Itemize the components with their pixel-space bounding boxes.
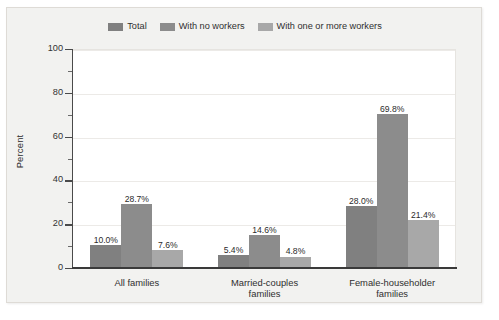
- bar-value-label: 69.8%: [371, 105, 414, 114]
- x-axis-group-label-line: families: [328, 288, 456, 299]
- bar[interactable]: [346, 206, 377, 267]
- bar[interactable]: [218, 255, 249, 267]
- legend-label-with-one-or-more-workers: With one or more workers: [277, 22, 382, 31]
- y-tick-label: 0: [27, 263, 63, 272]
- plot-area: 10.0%28.7%7.6%5.4%14.6%4.8%28.0%69.8%21.…: [73, 49, 456, 268]
- legend-swatch-total: [108, 23, 123, 31]
- y-tick-major: [65, 224, 72, 225]
- x-axis-line: [72, 267, 457, 269]
- x-axis-labels: All familiesMarried-couplesfamiliesFemal…: [73, 273, 456, 305]
- y-axis-labels: 020406080100: [23, 8, 63, 304]
- bar[interactable]: [408, 220, 439, 267]
- legend-swatch-with-no-workers: [160, 23, 175, 31]
- y-tick-major: [65, 268, 72, 269]
- x-axis-group-label-line: families: [201, 288, 329, 299]
- bar-value-label: 7.6%: [146, 241, 189, 250]
- y-tick-label: 80: [27, 88, 63, 97]
- legend-label-total: Total: [127, 22, 146, 31]
- bar-value-label: 4.8%: [274, 247, 317, 256]
- legend-item-total: Total: [108, 22, 146, 31]
- x-axis-group-label-line: Female-householder: [328, 277, 456, 288]
- y-tick-label: 40: [27, 175, 63, 184]
- bar[interactable]: [121, 204, 152, 267]
- y-tick-label: 20: [27, 219, 63, 228]
- bar[interactable]: [280, 257, 311, 268]
- bar[interactable]: [152, 250, 183, 267]
- y-tick-major: [65, 180, 72, 181]
- x-axis-group-label: Female-householderfamilies: [328, 277, 456, 299]
- bar-value-label: 21.4%: [402, 211, 445, 220]
- chart-figure: Total With no workers With one or more w…: [6, 7, 482, 303]
- x-axis-group-label: All families: [73, 277, 201, 288]
- bar[interactable]: [90, 245, 121, 267]
- x-axis-group-label: Married-couplesfamilies: [201, 277, 329, 299]
- bar[interactable]: [377, 114, 408, 267]
- legend-swatch-with-one-or-more-workers: [258, 23, 273, 31]
- gridline: [73, 50, 455, 51]
- x-axis-group-label-line: All families: [73, 277, 201, 288]
- legend-item-with-no-workers: With no workers: [160, 22, 245, 31]
- legend-item-with-one-or-more-workers: With one or more workers: [258, 22, 382, 31]
- gridline: [73, 94, 455, 95]
- chart-legend: Total With no workers With one or more w…: [7, 22, 483, 31]
- y-tick-major: [65, 137, 72, 138]
- bar-value-label: 28.7%: [115, 195, 158, 204]
- y-tick-label: 100: [27, 44, 63, 53]
- y-tick-label: 60: [27, 132, 63, 141]
- bar-value-label: 14.6%: [243, 226, 286, 235]
- legend-label-with-no-workers: With no workers: [179, 22, 245, 31]
- x-axis-group-label-line: Married-couples: [201, 277, 329, 288]
- y-tick-major: [65, 93, 72, 94]
- y-tick-major: [65, 49, 72, 50]
